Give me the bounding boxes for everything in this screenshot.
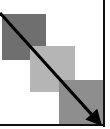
diagonal-arrow-icon (0, 0, 110, 129)
diagram-canvas (0, 0, 110, 129)
